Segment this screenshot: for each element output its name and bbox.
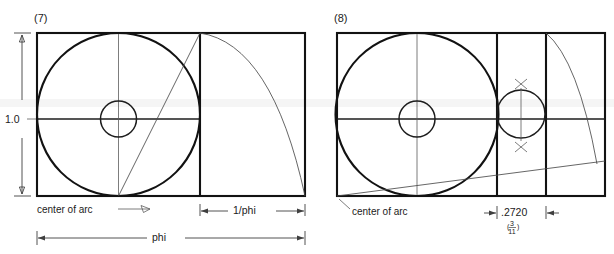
scan-artifact-band (0, 99, 614, 107)
fraction-denominator: 11 (508, 228, 515, 235)
panel-7-arc-note-label: center of arc (37, 204, 93, 215)
geometry-figure-svg: (7) 1.0 (0, 0, 614, 254)
panel-8-arc-note-label: center of arc (352, 206, 408, 217)
fraction-numerator: 3 (510, 220, 514, 227)
geometry-figure-container: (7) 1.0 (0, 0, 614, 254)
inv-phi-label: 1/phi (233, 204, 256, 216)
fraction-close-paren: ) (517, 223, 519, 231)
height-dim-label: 1.0 (5, 113, 20, 125)
panel-7-label: (7) (34, 12, 47, 24)
phi-label: phi (152, 231, 166, 243)
panel-8-label: (8) (334, 12, 347, 24)
segment-dim-label: .2720 (501, 206, 527, 218)
